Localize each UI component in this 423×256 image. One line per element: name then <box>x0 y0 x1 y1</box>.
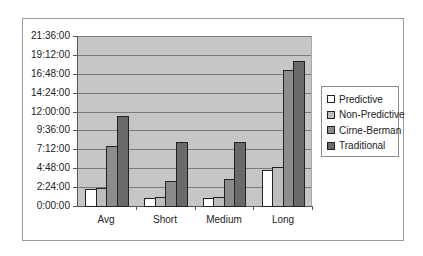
gridline <box>77 130 311 131</box>
legend-label: Cirne-Berman <box>339 125 401 136</box>
gridline <box>77 93 311 94</box>
x-tick <box>312 206 313 210</box>
legend-label: Traditional <box>339 140 385 151</box>
bar-traditional-short <box>176 142 188 207</box>
legend-label: Non-Predictive <box>339 109 405 120</box>
gridline <box>77 112 311 113</box>
x-tick <box>253 206 254 210</box>
x-tick-label: Long <box>254 214 312 225</box>
y-tick-label: 12:00:00 <box>0 107 70 117</box>
y-tick-label: 2:24:00 <box>0 182 70 192</box>
y-tick-label: 4:48:00 <box>0 163 70 173</box>
gridline <box>77 74 311 75</box>
legend-swatch-icon <box>327 126 335 134</box>
legend: PredictiveNon-PredictiveCirne-BermanTrad… <box>321 86 399 157</box>
legend-label: Predictive <box>339 94 383 105</box>
y-tick-label: 19:12:00 <box>0 50 70 60</box>
y-tick-label: 0:00:00 <box>0 201 70 211</box>
x-tick-label: Avg <box>77 214 135 225</box>
y-tick-label: 7:12:00 <box>0 144 70 154</box>
x-tick <box>136 206 137 210</box>
legend-item: Predictive <box>327 93 383 105</box>
bar-traditional-long <box>293 61 305 207</box>
legend-swatch-icon <box>327 95 335 103</box>
legend-item: Non-Predictive <box>327 109 405 121</box>
x-tick-label: Short <box>136 214 194 225</box>
x-tick-label: Medium <box>195 214 253 225</box>
bar-traditional-avg <box>117 116 129 207</box>
legend-item: Cirne-Berman <box>327 124 401 136</box>
bar-traditional-medium <box>234 142 246 207</box>
x-tick <box>195 206 196 210</box>
y-tick-label: 14:24:00 <box>0 88 70 98</box>
gridline <box>77 55 311 56</box>
y-tick-label: 16:48:00 <box>0 69 70 79</box>
legend-swatch-icon <box>327 111 335 119</box>
y-axis-line <box>77 36 78 207</box>
legend-item: Traditional <box>327 140 385 152</box>
legend-swatch-icon <box>327 142 335 150</box>
y-tick-label: 9:36:00 <box>0 125 70 135</box>
gridline <box>77 36 311 37</box>
y-tick-label: 21:36:00 <box>0 31 70 41</box>
